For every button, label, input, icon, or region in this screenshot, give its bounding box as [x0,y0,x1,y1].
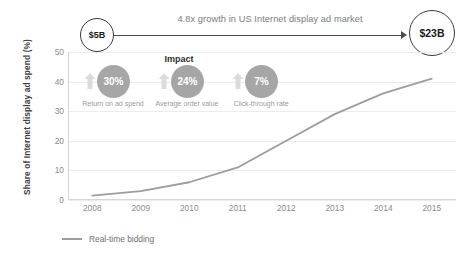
gridline [69,200,456,201]
x-tick-label: 2011 [218,203,258,213]
y-tick-label: 20 [40,136,64,146]
x-tick-label: 2009 [121,203,161,213]
up-arrow-icon [84,73,96,89]
up-arrow-icon [158,73,170,89]
growth-arrow-head-icon [401,31,407,39]
chart-page: 4.8x growth in US Internet display ad ma… [0,0,476,262]
y-tick-label: 40 [40,77,64,87]
x-tick-label: 2008 [72,203,112,213]
x-tick-label: 2013 [315,203,355,213]
growth-banner: 4.8x growth in US Internet display ad ma… [0,0,476,52]
y-tick-label: 50 [40,47,64,57]
legend-label-real-time-bidding: Real-time bidding [89,234,154,244]
chart-legend: Real-time bidding [62,234,154,244]
impact-block: Impact 30%Return on ad spend24%Average o… [68,54,298,116]
x-tick-label: 2015 [412,203,452,213]
growth-banner-label: 4.8x growth in US Internet display ad ma… [150,14,390,24]
legend-swatch-real-time-bidding [62,238,82,240]
impact-value-badge: 24% [171,65,204,98]
impact-caption: Click-through rate [227,100,295,109]
impact-caption: Return on ad spend [79,100,147,109]
growth-arrow-line [114,35,404,36]
start-value-badge: $5B [80,18,114,52]
end-value-badge: $23B [409,10,455,56]
x-tick-label: 2010 [169,203,209,213]
x-tick-label: 2014 [363,203,403,213]
y-tick-label: 30 [40,106,64,116]
impact-caption: Average order value [153,100,221,109]
x-axis-ticks: 20082009201020112012201320142015 [68,203,456,217]
y-tick-label: 0 [40,195,64,205]
impact-value-badge: 7% [245,65,278,98]
y-tick-label: 10 [40,165,64,175]
impact-value-badge: 30% [97,65,130,98]
up-arrow-icon [232,73,244,89]
impact-title: Impact [124,54,234,64]
x-tick-label: 2012 [266,203,306,213]
